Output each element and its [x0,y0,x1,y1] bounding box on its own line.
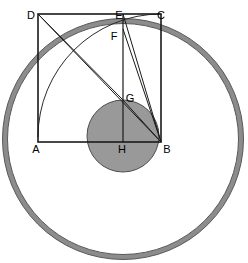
point-label-A: A [32,143,40,155]
point-label-G: G [126,92,135,104]
point-label-E: E [115,9,122,21]
point-label-H: H [118,143,126,155]
point-label-B: B [163,143,170,155]
point-label-C: C [157,9,165,21]
point-label-F: F [111,30,118,42]
point-label-D: D [27,9,35,21]
figure-canvas: D E C F G A H B [0,0,248,263]
geometry-figure: D E C F G A H B [0,0,248,263]
